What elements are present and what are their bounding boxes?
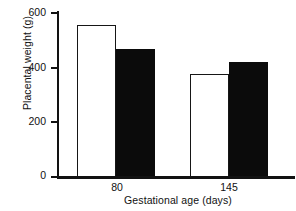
- x-tick-label-145: 145: [194, 181, 264, 193]
- plot-area: [0, 0, 296, 211]
- x-tick-label-80: 80: [82, 181, 152, 193]
- bar-open-145: [190, 74, 229, 177]
- x-axis-title: Gestational age (days): [58, 194, 296, 206]
- bar-filled-80: [116, 49, 155, 176]
- placental-weight-bar-chart: Placental weight (g) 600 400 200 0 80 14…: [0, 0, 296, 211]
- bar-open-80: [77, 25, 116, 176]
- x-axis-line: [57, 176, 295, 179]
- bar-filled-145: [229, 62, 268, 176]
- y-axis-line: [57, 11, 59, 177]
